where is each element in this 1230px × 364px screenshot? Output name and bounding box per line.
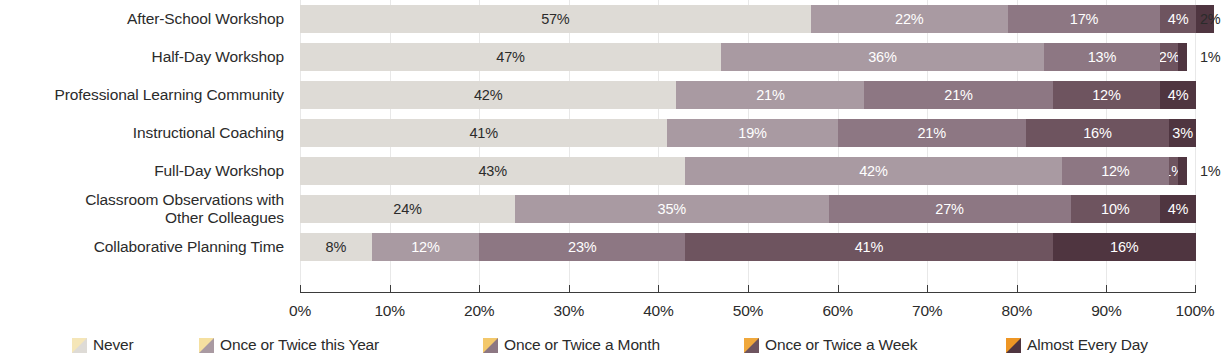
- bar-segment: 21%: [676, 81, 864, 109]
- category-label-line: Half-Day Workshop: [0, 48, 284, 65]
- segment-value-label: 47%: [496, 49, 524, 65]
- segment-value-label: 12%: [411, 239, 439, 255]
- axis-tick-mark: [300, 285, 301, 293]
- bar-segment: 22%: [811, 5, 1008, 33]
- segment-value-label: 19%: [738, 125, 766, 141]
- category-label-line: Full-Day Workshop: [0, 162, 284, 179]
- axis-tick-mark: [1106, 285, 1107, 293]
- axis-tick-label: 100%: [1176, 302, 1215, 320]
- axis-tick-mark: [927, 285, 928, 293]
- bar-segment: 42%: [300, 81, 676, 109]
- axis-tick-mark: [390, 285, 391, 293]
- bar-segment: 35%: [515, 195, 829, 223]
- category-label: Collaborative Planning Time: [0, 238, 292, 255]
- segment-value-label: 8%: [326, 239, 347, 255]
- segment-value-label: 3%: [1172, 125, 1193, 141]
- stacked-bar: 57%22%17%4%: [300, 5, 1196, 33]
- segment-value-label: 41%: [855, 239, 883, 255]
- legend-item[interactable]: Almost Every Day: [1006, 336, 1148, 354]
- bar-segment: [1178, 43, 1187, 71]
- bar-segment: 43%: [300, 157, 685, 185]
- stacked-bar: 41%19%21%16%3%: [300, 119, 1196, 147]
- segment-value-label: 16%: [1083, 125, 1111, 141]
- chart-legend: NeverOnce or Twice this YearOnce or Twic…: [0, 334, 1230, 360]
- legend-label: Once or Twice a Week: [765, 336, 917, 354]
- outside-value-label: 1%: [1200, 49, 1221, 65]
- segment-value-label: 27%: [935, 201, 963, 217]
- segment-value-label: 24%: [393, 201, 421, 217]
- stacked-bar-chart: After-School Workshop57%22%17%4%2%Half-D…: [0, 0, 1230, 364]
- axis-tick-label: 60%: [822, 302, 852, 320]
- category-label: Half-Day Workshop: [0, 48, 292, 65]
- category-label-line: Instructional Coaching: [0, 124, 284, 141]
- axis-tick-label: 10%: [374, 302, 404, 320]
- axis-tick-mark: [1195, 285, 1196, 293]
- bar-segment: 8%: [300, 233, 372, 261]
- segment-value-label: 57%: [541, 11, 569, 27]
- category-label-line: Classroom Observations with: [0, 191, 284, 209]
- axis-tick-label: 90%: [1091, 302, 1121, 320]
- bar-segment: 36%: [721, 43, 1044, 71]
- category-label: After-School Workshop: [0, 10, 292, 27]
- bar-segment: 27%: [829, 195, 1071, 223]
- bar-segment: [1178, 157, 1187, 185]
- bar-segment: 57%: [300, 5, 811, 33]
- stacked-bar: 43%42%12%1%: [300, 157, 1196, 185]
- bar-segment: 12%: [1053, 81, 1161, 109]
- bar-segment: 42%: [685, 157, 1061, 185]
- bar-segment: 4%: [1160, 5, 1196, 33]
- segment-value-label: 4%: [1168, 201, 1189, 217]
- segment-value-label: 1%: [1169, 163, 1178, 179]
- bar-segment: 41%: [685, 233, 1052, 261]
- bar-segment: 17%: [1008, 5, 1160, 33]
- category-label: Instructional Coaching: [0, 124, 292, 141]
- segment-value-label: 4%: [1168, 11, 1189, 27]
- bar-segment: 16%: [1026, 119, 1169, 147]
- bar-segment: 19%: [667, 119, 837, 147]
- legend-label: Once or Twice a Month: [504, 336, 660, 354]
- category-label-line: Other Colleagues: [0, 209, 284, 227]
- legend-item[interactable]: Once or Twice a Month: [483, 336, 660, 354]
- bar-segment: 2%: [1160, 43, 1178, 71]
- segment-value-label: 42%: [474, 87, 502, 103]
- bar-segment: 24%: [300, 195, 515, 223]
- segment-value-label: 12%: [1101, 163, 1129, 179]
- legend-label: Once or Twice this Year: [220, 336, 379, 354]
- bar-segment: 3%: [1169, 119, 1196, 147]
- chart-row: Half-Day Workshop47%36%13%2%1%: [0, 43, 1230, 71]
- stacked-bar: 24%35%27%10%4%: [300, 195, 1196, 223]
- axis-tick-label: 70%: [912, 302, 942, 320]
- legend-item[interactable]: Once or Twice this Year: [199, 336, 379, 354]
- axis-tick-mark: [1017, 285, 1018, 293]
- segment-value-label: 4%: [1168, 87, 1189, 103]
- segment-value-label: 41%: [469, 125, 497, 141]
- chart-row: Full-Day Workshop43%42%12%1%1%: [0, 157, 1230, 185]
- segment-value-label: 16%: [1110, 239, 1138, 255]
- segment-value-label: 2%: [1160, 49, 1178, 65]
- segment-value-label: 35%: [658, 201, 686, 217]
- bar-segment: 13%: [1044, 43, 1160, 71]
- bar-segment: 12%: [1062, 157, 1170, 185]
- segment-value-label: 36%: [868, 49, 896, 65]
- legend-item[interactable]: Once or Twice a Week: [744, 336, 917, 354]
- category-label: Full-Day Workshop: [0, 162, 292, 179]
- axis-tick-label: 30%: [554, 302, 584, 320]
- bar-segment: 41%: [300, 119, 667, 147]
- segment-value-label: 21%: [917, 125, 945, 141]
- legend-swatch-icon: [744, 338, 759, 353]
- segment-value-label: 12%: [1092, 87, 1120, 103]
- segment-value-label: 17%: [1070, 11, 1098, 27]
- bar-segment: 1%: [1169, 157, 1178, 185]
- legend-swatch-icon: [483, 338, 498, 353]
- segment-value-label: 42%: [859, 163, 887, 179]
- segment-value-label: 22%: [895, 11, 923, 27]
- bar-segment: 23%: [479, 233, 685, 261]
- axis-tick-label: 0%: [289, 302, 311, 320]
- segment-value-label: 21%: [944, 87, 972, 103]
- axis-tick-label: 80%: [1002, 302, 1032, 320]
- bar-segment: 47%: [300, 43, 721, 71]
- axis-tick-mark: [838, 285, 839, 293]
- segment-value-label: 43%: [478, 163, 506, 179]
- segment-value-label: 13%: [1088, 49, 1116, 65]
- legend-item[interactable]: Never: [72, 336, 134, 354]
